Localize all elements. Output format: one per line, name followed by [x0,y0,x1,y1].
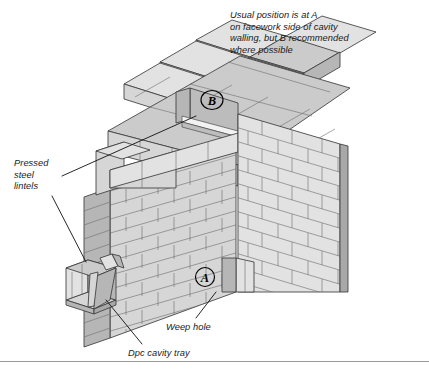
marker-a-text: A [200,271,209,285]
construction-illustration-svg: .fc{fill:#d6d6d6;} .fcl{fill:#e2e2e2;} .… [0,0,429,372]
pressed-steel-lintels-label: Pressed steel lintels [14,158,48,193]
cavity-wall-diagram: .fc{fill:#d6d6d6;} .fcl{fill:#e2e2e2;} .… [0,0,429,372]
dpc-cavity-tray-label: Dpc cavity tray [128,348,190,360]
top-annotation-note: Usual position is at A on facework side … [230,10,349,56]
opening-reveal [222,258,254,292]
marker-b-text: B [207,94,216,108]
pressed-steel-lintel [66,254,124,314]
footer-divider [0,361,429,362]
weep-hole-label: Weep hole [166,322,211,334]
